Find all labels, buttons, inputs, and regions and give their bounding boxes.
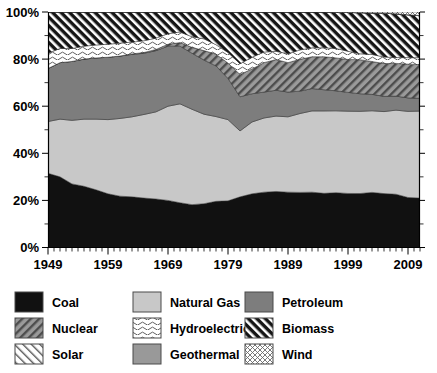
legend-swatch [15, 292, 43, 312]
x-axis-tick-label: 1949 [34, 257, 63, 272]
legend-swatch [245, 344, 273, 364]
y-axis-tick-label: 100% [6, 5, 40, 20]
legend-label: Hydroelectric [170, 322, 250, 336]
legend-swatch [133, 292, 161, 312]
legend-swatch [15, 344, 43, 364]
y-axis-tick-label: 20% [13, 193, 39, 208]
legend-swatch [245, 318, 273, 338]
legend-item-petroleum[interactable]: Petroleum [245, 292, 343, 312]
legend-label: Natural Gas [170, 296, 240, 310]
legend-label: Petroleum [282, 296, 343, 310]
y-axis-tick-label: 60% [13, 99, 39, 114]
plot-area [48, 12, 420, 248]
x-axis-tick-label: 1979 [214, 257, 243, 272]
legend-item-hydroelectric[interactable]: Hydroelectric [133, 318, 250, 338]
x-axis-tick-label: 1959 [94, 257, 123, 272]
x-axis-tick-label: 2009 [394, 257, 423, 272]
legend-label: Solar [52, 348, 83, 362]
legend-label: Coal [52, 296, 79, 310]
legend-label: Biomass [282, 322, 334, 336]
legend-swatch [133, 318, 161, 338]
legend-swatch [133, 344, 161, 364]
legend-item-natural-gas[interactable]: Natural Gas [133, 292, 240, 312]
chart-legend: CoalNatural GasPetroleumNuclearHydroelec… [15, 292, 343, 364]
chart-canvas: 0%20%40%60%80%100% 194919591969197919891… [0, 0, 437, 373]
legend-item-biomass[interactable]: Biomass [245, 318, 334, 338]
legend-label: Wind [282, 348, 312, 362]
x-axis-tick-label: 1999 [334, 257, 363, 272]
x-axis-tick-label: 1969 [154, 257, 183, 272]
legend-item-nuclear[interactable]: Nuclear [15, 318, 98, 338]
legend-item-geothermal[interactable]: Geothermal [133, 344, 239, 364]
y-axis-tick-label: 40% [13, 146, 39, 161]
y-axis-tick-label: 80% [13, 52, 39, 67]
stacked-area-chart: 0%20%40%60%80%100% 194919591969197919891… [0, 0, 437, 373]
y-axis-tick-label: 0% [20, 240, 39, 255]
legend-label: Geothermal [170, 348, 239, 362]
x-axis-tick-label: 1989 [274, 257, 303, 272]
legend-swatch [15, 318, 43, 338]
legend-label: Nuclear [52, 322, 98, 336]
legend-swatch [245, 292, 273, 312]
